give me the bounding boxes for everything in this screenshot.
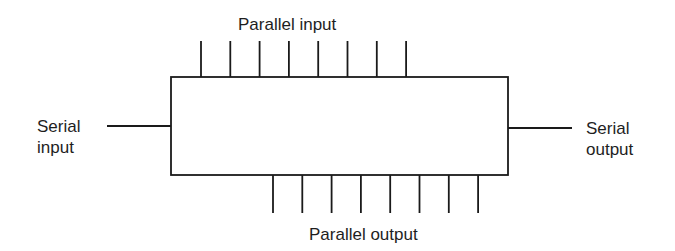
shift-register-diagram: Parallel input Parallel output Serial in… [0,0,675,251]
serial-input-label-line1: Serial [37,117,80,136]
parallel-input-label: Parallel input [238,15,337,34]
register-block [171,77,508,175]
serial-input-label-line2: input [37,138,74,157]
parallel-output-label: Parallel output [309,225,418,244]
parallel-input-lines [201,41,406,77]
serial-output-label-line1: Serial [586,119,629,138]
parallel-output-lines [273,175,478,213]
serial-output-label-line2: output [586,140,634,159]
